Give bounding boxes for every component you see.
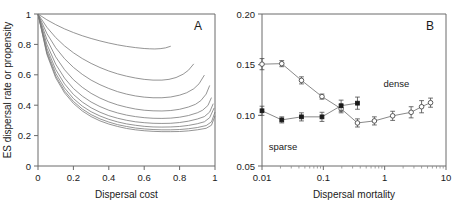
panel-b-marker-dense[interactable] xyxy=(299,78,304,83)
figure-container: 00.20.40.60.8100.20.40.60.81Dispersal co… xyxy=(0,0,460,224)
panel-a-yticklabel: 0.2 xyxy=(18,130,31,141)
panel-a-xaxis-title: Dispersal cost xyxy=(95,189,158,200)
panel-b-annotation-sparse: sparse xyxy=(269,141,298,152)
panel-b-marker-sparse[interactable] xyxy=(320,115,324,119)
panel-b-marker-sparse[interactable] xyxy=(339,104,343,108)
panel-b-yticklabel: 0.15 xyxy=(237,59,256,70)
panel-b-label: B xyxy=(426,19,434,33)
panel-a-curve xyxy=(38,14,211,118)
panel-a-xticklabel: 0.2 xyxy=(67,172,80,183)
panel-a-yticklabel: 1 xyxy=(26,9,31,20)
panel-b-yticklabel: 0.20 xyxy=(237,9,256,20)
panel-a-xticklabel: 0.8 xyxy=(173,172,186,183)
panel-b-marker-dense[interactable] xyxy=(279,61,284,66)
panel-b-xticklabel: 0.1 xyxy=(317,172,330,183)
panel-a-xticklabel: 0 xyxy=(35,172,40,183)
panel-a-axes xyxy=(38,14,215,166)
panel-a-yticklabel: 0.4 xyxy=(18,100,31,111)
panel-a-yticklabel: 0.8 xyxy=(18,39,31,50)
panel-b-xaxis-title: Dispersal mortality xyxy=(313,189,395,200)
panel-b-xticklabel: 1 xyxy=(382,172,387,183)
panel-b-annotation-dense: dense xyxy=(383,78,409,89)
panel-b-marker-dense[interactable] xyxy=(390,114,395,119)
panel-b-marker-dense[interactable] xyxy=(372,119,377,124)
figure-svg: 00.20.40.60.8100.20.40.60.81Dispersal co… xyxy=(0,0,460,224)
panel-b-marker-dense[interactable] xyxy=(355,121,360,126)
panel-b-xticklabel: 0.01 xyxy=(253,172,272,183)
panel-a-curve xyxy=(38,14,215,130)
panel-b-marker-dense[interactable] xyxy=(409,110,414,115)
panel-b-marker-dense[interactable] xyxy=(320,94,325,99)
panel-a-label: A xyxy=(194,19,202,33)
panel-b-marker-sparse[interactable] xyxy=(260,109,264,113)
panel-a-curve xyxy=(38,14,194,80)
panel-b-connector-dense xyxy=(262,64,431,123)
panel-b-marker-dense[interactable] xyxy=(260,62,265,67)
panel-b-marker-sparse[interactable] xyxy=(280,118,284,122)
panel-b-marker-dense[interactable] xyxy=(428,100,433,105)
panel-a-xticklabel: 1 xyxy=(212,172,217,183)
panel-b-xticklabel: 10 xyxy=(441,172,452,183)
panel-a-xticklabel: 0.6 xyxy=(138,172,151,183)
panel-a-yaxis-title: ES dispersal rate or propensity xyxy=(2,22,13,159)
panel-a-yticklabel: 0.6 xyxy=(18,69,31,80)
panel-b-marker-sparse[interactable] xyxy=(356,101,360,105)
panel-a-curve xyxy=(38,14,171,49)
panel-b-marker-sparse[interactable] xyxy=(300,115,304,119)
panel-a-xticklabel: 0.4 xyxy=(102,172,115,183)
panel-a-yticklabel: 0 xyxy=(26,161,31,172)
panel-b-yticklabel: 0.05 xyxy=(237,161,256,172)
panel-b-marker-dense[interactable] xyxy=(419,104,424,109)
panel-a-curve xyxy=(38,14,215,132)
panel-b-yticklabel: 0.10 xyxy=(237,110,256,121)
